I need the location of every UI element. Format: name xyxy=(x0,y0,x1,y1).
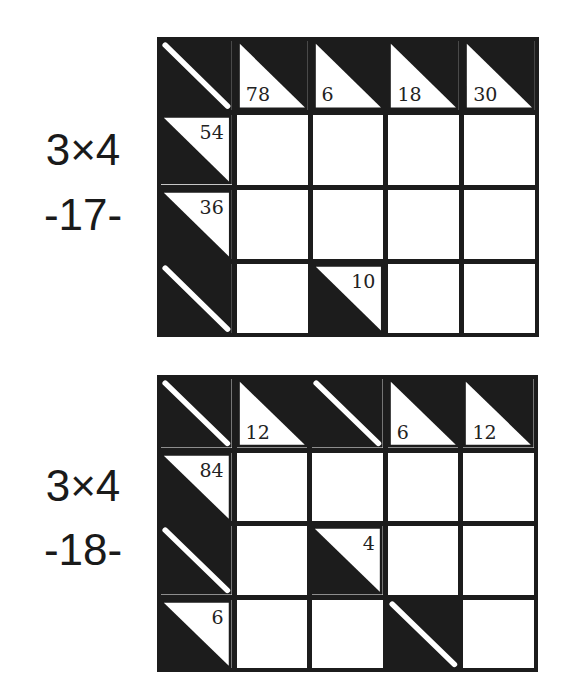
answer-cell[interactable] xyxy=(388,526,459,595)
blocked-cell xyxy=(388,600,459,669)
row-clue-cell: 6 xyxy=(161,600,232,669)
answer-cell[interactable] xyxy=(237,190,308,259)
blocked-cell xyxy=(161,379,232,448)
row-clue-cell: 10 xyxy=(313,264,384,333)
answer-cell[interactable] xyxy=(388,453,459,522)
puzzle-2-size-label: 3×4 xyxy=(28,464,138,508)
clue-number: 4 xyxy=(363,534,375,553)
column-clue-cell: 6 xyxy=(388,379,459,448)
puzzle-1-size-label: 3×4 xyxy=(28,128,138,172)
clue-number: 54 xyxy=(200,123,224,142)
column-clue-cell: 18 xyxy=(388,41,459,110)
answer-cell[interactable] xyxy=(463,600,534,669)
blocked-cell xyxy=(312,379,383,448)
clue-number: 12 xyxy=(246,423,270,442)
puzzle-2-number-label: -18- xyxy=(28,528,138,572)
row-clue-cell: 36 xyxy=(161,190,232,259)
diagonal-stripe-icon xyxy=(161,379,232,448)
blocked-cell xyxy=(161,526,232,595)
answer-cell[interactable] xyxy=(237,600,308,669)
answer-cell[interactable] xyxy=(388,115,459,184)
answer-cell[interactable] xyxy=(237,453,308,522)
answer-cell[interactable] xyxy=(388,190,459,259)
answer-cell[interactable] xyxy=(312,453,383,522)
row-clue-cell: 4 xyxy=(312,526,383,595)
answer-cell[interactable] xyxy=(464,264,535,333)
clue-number: 10 xyxy=(351,272,375,291)
blocked-cell xyxy=(161,264,232,333)
clue-number: 84 xyxy=(199,461,223,480)
clue-number: 36 xyxy=(200,198,224,217)
clue-number: 30 xyxy=(473,85,497,104)
puzzle-1-grid: 7861830543610 xyxy=(157,37,539,337)
answer-cell[interactable] xyxy=(464,190,535,259)
diagonal-stripe-icon xyxy=(161,41,232,110)
clue-number: 6 xyxy=(212,608,224,627)
answer-cell[interactable] xyxy=(313,190,384,259)
diagonal-stripe-icon xyxy=(388,600,459,669)
clue-number: 6 xyxy=(322,85,334,104)
blocked-cell xyxy=(161,41,232,110)
diagonal-stripe-icon xyxy=(312,379,383,448)
diagonal-stripe-icon xyxy=(161,526,232,595)
answer-cell[interactable] xyxy=(463,526,534,595)
answer-cell[interactable] xyxy=(312,600,383,669)
column-clue-cell: 12 xyxy=(237,379,308,448)
puzzle-2-grid: 126128446 xyxy=(157,375,538,672)
answer-cell[interactable] xyxy=(237,264,308,333)
row-clue-cell: 54 xyxy=(161,115,232,184)
column-clue-cell: 30 xyxy=(464,41,535,110)
column-clue-cell: 6 xyxy=(313,41,384,110)
answer-cell[interactable] xyxy=(463,453,534,522)
answer-cell[interactable] xyxy=(313,115,384,184)
clue-number: 78 xyxy=(246,85,270,104)
answer-cell[interactable] xyxy=(237,526,308,595)
diagonal-stripe-icon xyxy=(161,264,232,333)
clue-number: 6 xyxy=(397,423,409,442)
answer-cell[interactable] xyxy=(388,264,459,333)
puzzle-1-number-label: -17- xyxy=(28,193,138,237)
row-clue-cell: 84 xyxy=(161,453,232,522)
clue-number: 18 xyxy=(397,85,421,104)
answer-cell[interactable] xyxy=(464,115,535,184)
clue-number: 12 xyxy=(472,423,496,442)
column-clue-cell: 78 xyxy=(237,41,308,110)
column-clue-cell: 12 xyxy=(463,379,534,448)
answer-cell[interactable] xyxy=(237,115,308,184)
